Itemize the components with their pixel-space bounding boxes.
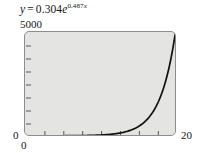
x-axis-max-label: 20 [181, 129, 192, 141]
y-axis-min-label: 0 [13, 129, 19, 141]
x-axis-ticks [45, 131, 158, 136]
equation-exponent-coefficient: 0.487 [67, 2, 83, 10]
equation-exponent: 0.487x [67, 2, 86, 10]
equation-coefficient: 0.304 [36, 3, 62, 15]
equation-caption: y=0.304e0.487x [20, 2, 87, 17]
y-axis-ticks [26, 46, 31, 124]
x-axis-min-label: 0 [21, 139, 27, 151]
equation-exponent-variable: x [84, 2, 87, 10]
plot-canvas [25, 32, 176, 136]
equation-equals-sign: = [25, 3, 36, 15]
exponential-function-figure: y=0.304e0.487x [0, 0, 197, 153]
plot-area [24, 31, 176, 136]
exponential-curve [26, 33, 176, 136]
y-axis-max-label: 5000 [20, 18, 42, 30]
